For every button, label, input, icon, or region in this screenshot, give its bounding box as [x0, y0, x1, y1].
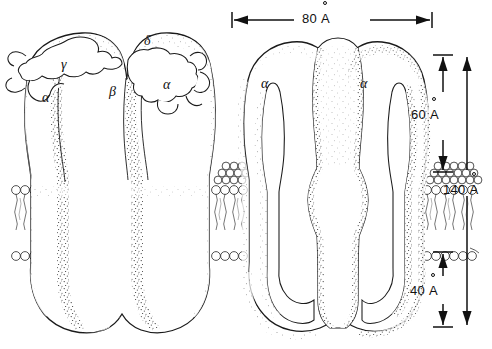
- subunit-label-beta: β: [109, 84, 116, 100]
- subunit-label-alpha-left-2: α: [163, 77, 170, 93]
- figure-canvas: 80 A 60 A 140 A 40 A α β γ δ α α α: [0, 0, 492, 349]
- subunit-label-alpha-left-1: α: [42, 90, 49, 106]
- dimension-label-80A: 80 A: [302, 11, 330, 26]
- subunit-label-gamma: γ: [61, 57, 67, 73]
- subunit-label-alpha-right-1: α: [261, 76, 268, 92]
- dimension-label-40A: 40 A: [410, 283, 438, 298]
- subunit-label-delta: δ: [144, 33, 151, 49]
- dimension-label-140A: 140 A: [443, 182, 479, 197]
- subunit-label-alpha-right-2: α: [360, 76, 367, 92]
- left-receptor: [6, 33, 221, 341]
- dimension-label-60A: 60 A: [411, 107, 439, 122]
